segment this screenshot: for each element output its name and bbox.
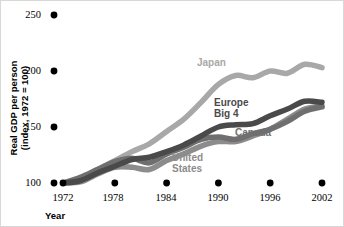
series-label-us-line2: States	[172, 163, 202, 174]
x-tick-1996: 1996	[248, 192, 292, 203]
y-axis-tick-dot	[51, 180, 58, 187]
x-axis-tick-dot	[111, 180, 118, 187]
y-tick-100: 100	[9, 177, 41, 188]
x-axis-tick-dot	[215, 180, 222, 187]
x-axis-title: Year	[45, 210, 65, 221]
x-axis-tick-dot	[319, 180, 326, 187]
x-tick-2002: 2002	[300, 192, 344, 203]
x-tick-1972: 1972	[41, 192, 85, 203]
series-label-europe-line2: Big 4	[214, 108, 238, 119]
series-label-japan: Japan	[197, 57, 226, 68]
series-label-us-line1: United	[172, 152, 203, 163]
y-axis-tick-dot	[51, 12, 58, 19]
chart-figure: 250 200 150 100 1972 1978 1984 1990 1996…	[0, 0, 344, 227]
x-axis-tick-dot	[60, 180, 67, 187]
series-label-europe-line1: Europe	[214, 97, 248, 108]
x-tick-1990: 1990	[196, 192, 240, 203]
y-axis-tick-dot	[51, 124, 58, 131]
y-axis-title-line1: Real GDP per person	[8, 61, 19, 156]
y-tick-250: 250	[9, 9, 41, 20]
series-label-europe-big-4: Europe Big 4	[214, 97, 248, 119]
y-axis-title-line2: (index, 1972 = 100)	[19, 66, 30, 150]
series-label-united-states: United States	[172, 152, 203, 174]
y-axis-tick-dot	[51, 68, 58, 75]
x-axis-tick-dot	[163, 180, 170, 187]
x-tick-1978: 1978	[91, 192, 135, 203]
y-axis-title: Real GDP per person (index, 1972 = 100)	[8, 48, 30, 168]
series-label-canada: Canada	[235, 127, 271, 138]
x-axis-tick-dot	[267, 180, 274, 187]
x-tick-1984: 1984	[144, 192, 188, 203]
